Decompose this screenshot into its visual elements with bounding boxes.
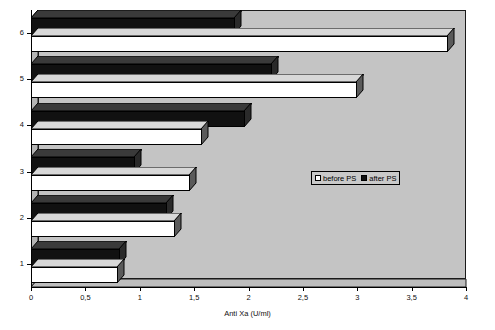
bar-top-face: [31, 149, 142, 157]
bar-after-ps-cat-3: [31, 149, 142, 165]
x-tick-label-1: 0,5: [70, 293, 100, 302]
bar-after-ps-cat-1: [31, 241, 127, 257]
bar-front-face: [31, 129, 202, 145]
bar-side-face: [356, 74, 363, 98]
bar-front-face: [31, 36, 448, 52]
x-tick-2: [140, 287, 141, 291]
y-tick-label-2: 2: [8, 213, 24, 222]
bar-front-face: [31, 82, 357, 98]
y-tick-6: [27, 33, 31, 34]
x-tick-label-2: 1: [125, 293, 155, 302]
bar-after-ps-cat-4: [31, 103, 252, 119]
bar-side-face: [244, 103, 251, 127]
bar-side-face: [174, 213, 181, 237]
bar-top-face: [31, 241, 127, 249]
x-tick-label-8: 4: [451, 293, 481, 302]
legend-entry-after-ps[interactable]: after PS: [361, 174, 396, 183]
bar-before-ps-cat-6: [31, 28, 455, 44]
bar-top-face: [31, 56, 279, 64]
x-tick-label-0: 0: [16, 293, 46, 302]
y-tick-label-4: 4: [8, 120, 24, 129]
x-tick-label-5: 2,5: [288, 293, 318, 302]
x-tick-label-7: 3,5: [397, 293, 427, 302]
x-tick-7: [412, 287, 413, 291]
x-tick-0: [31, 287, 32, 291]
bar-before-ps-cat-1: [31, 259, 125, 275]
bar-after-ps-cat-2: [31, 195, 174, 211]
x-tick-label-4: 2: [234, 293, 264, 302]
x-tick-5: [303, 287, 304, 291]
y-tick-5: [27, 79, 31, 80]
y-tick-label-3: 3: [8, 167, 24, 176]
bar-top-face: [31, 74, 364, 82]
bar-before-ps-cat-5: [31, 74, 364, 90]
x-tick-label-6: 3: [342, 293, 372, 302]
y-tick-3: [27, 172, 31, 173]
y-tick-label-5: 5: [8, 74, 24, 83]
y-axis-line: [31, 10, 32, 288]
chart-container: 00,511,522,533,54 123456 Anti Xa (U/ml) …: [0, 0, 495, 330]
bar-side-face: [117, 259, 124, 283]
bar-before-ps-cat-2: [31, 213, 182, 229]
legend-swatch-after-ps: [361, 175, 367, 181]
y-tick-4: [27, 125, 31, 126]
bar-side-face: [447, 28, 454, 52]
bar-side-face: [189, 167, 196, 191]
bar-before-ps-cat-3: [31, 167, 197, 183]
bar-front-face: [31, 221, 175, 237]
bar-after-ps-cat-5: [31, 56, 279, 72]
x-tick-1: [85, 287, 86, 291]
x-tick-label-3: 1,5: [179, 293, 209, 302]
chart-legend[interactable]: before PS after PS: [311, 171, 400, 185]
x-axis-title: Anti Xa (U/ml): [0, 309, 495, 318]
legend-swatch-before-ps: [315, 175, 321, 181]
x-tick-3: [194, 287, 195, 291]
bar-top-face: [31, 259, 125, 267]
y-tick-2: [27, 218, 31, 219]
y-tick-label-1: 1: [8, 259, 24, 268]
bar-top-face: [31, 10, 242, 18]
bar-top-face: [31, 195, 174, 203]
bar-side-face: [201, 121, 208, 145]
bar-front-face: [31, 267, 118, 283]
bar-top-face: [31, 213, 182, 221]
bar-front-face: [31, 175, 190, 191]
legend-entry-before-ps[interactable]: before PS: [315, 174, 356, 183]
y-tick-1: [27, 264, 31, 265]
x-tick-8: [466, 287, 467, 291]
legend-label-after-ps: after PS: [369, 174, 396, 183]
y-tick-label-6: 6: [8, 28, 24, 37]
bar-before-ps-cat-4: [31, 121, 209, 137]
bar-top-face: [31, 103, 252, 111]
bar-top-face: [31, 28, 455, 36]
legend-label-before-ps: before PS: [323, 174, 356, 183]
bar-top-face: [31, 167, 197, 175]
x-tick-6: [357, 287, 358, 291]
bar-top-face: [31, 121, 209, 129]
bar-after-ps-cat-6: [31, 10, 242, 26]
x-tick-4: [249, 287, 250, 291]
